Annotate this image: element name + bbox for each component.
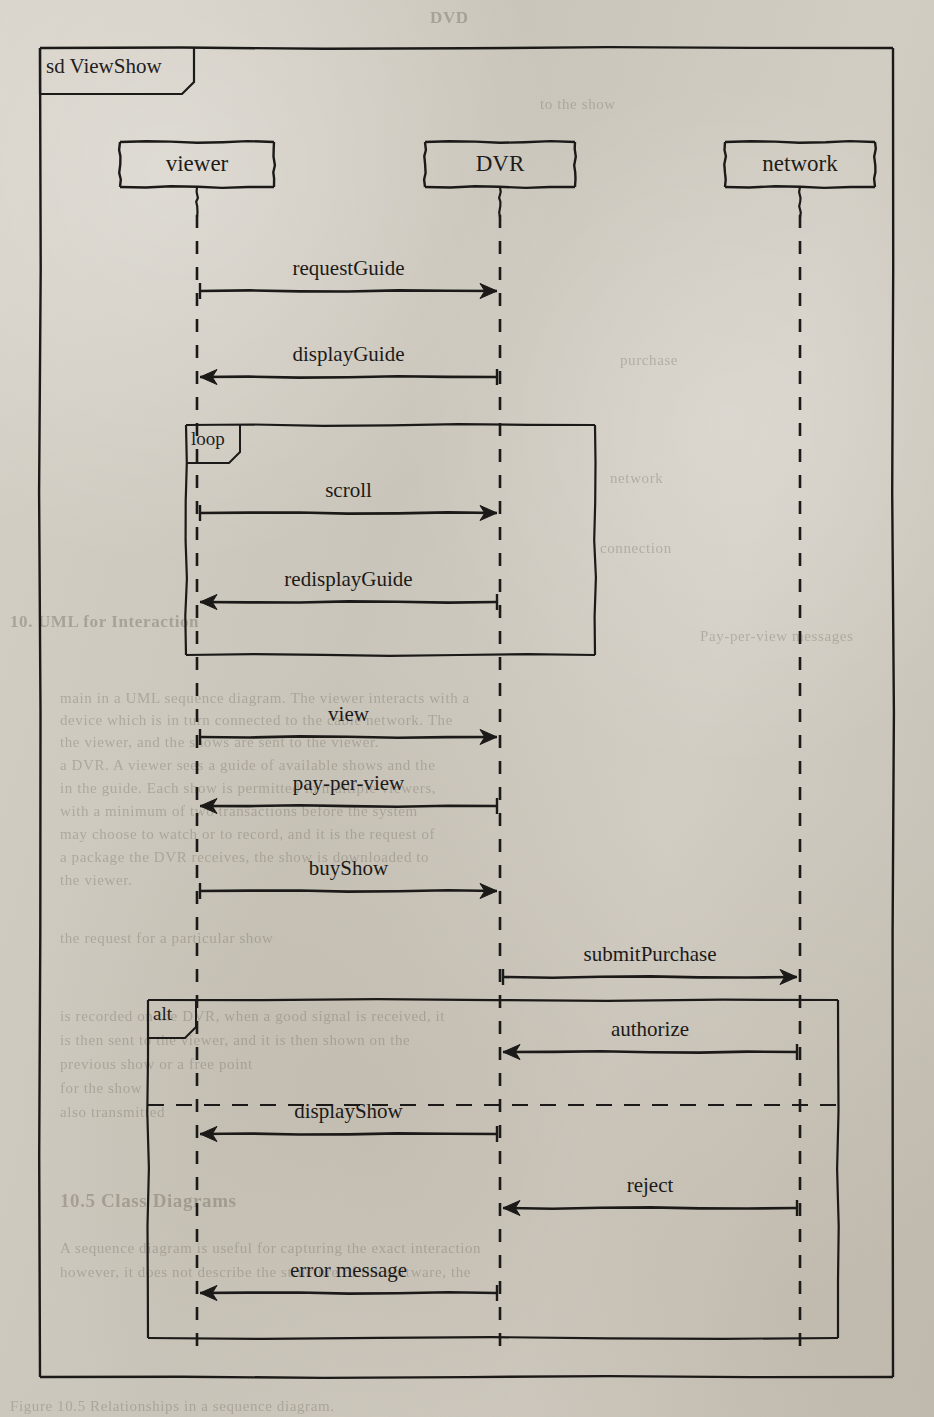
message-2 [200,505,497,521]
message-5 [200,798,497,814]
message-label-reject: reject [627,1173,674,1198]
lifeline-name-dvr: DVR [425,151,575,177]
message-arrow-shaft [200,1133,497,1134]
message-label-error-message: error message [290,1258,407,1283]
message-arrow-shaft [200,376,497,377]
loop-fragment-border-bottom [186,654,595,656]
outer-frame-border-bottom [40,1376,893,1378]
lifeline-name-viewer: viewer [120,151,274,177]
message-label-displayguide: displayGuide [293,342,405,367]
message-arrow-shaft [503,1207,797,1208]
message-1 [200,369,497,385]
outer-frame-border-top [40,47,893,49]
alt-fragment-border-left [147,1000,149,1338]
loop-fragment-border-left [185,425,187,655]
message-arrow-shaft [200,805,497,806]
sequence-diagram-canvas: sd ViewShowviewerDVRnetworkloopaltreques… [0,0,934,1417]
outer-frame-border-left [39,48,41,1377]
alt-fragment-border-right [837,1000,839,1338]
message-arrow-shaft [200,290,497,291]
message-arrow-shaft [200,890,497,891]
message-label-displayshow: displayShow [294,1099,403,1124]
lifeline-name-network: network [725,151,875,177]
lifeline-head-dvr-top [425,141,575,143]
message-arrow-shaft [200,601,497,602]
lifeline-stub-network [799,187,801,217]
message-label-buyshow: buyShow [309,856,388,881]
lifeline-head-network-top [725,141,875,143]
message-3 [200,594,497,610]
lifeline-stub-viewer [196,187,198,217]
lifeline-head-viewer-top [120,141,274,143]
message-arrow-shaft [200,512,497,513]
message-8 [503,1044,797,1060]
message-arrow-shaft [503,1051,797,1052]
message-label-authorize: authorize [611,1017,689,1042]
outer-frame-border-right [892,48,894,1377]
loop-fragment-border-top [186,424,595,426]
message-label-view: view [328,702,369,727]
message-4 [200,729,497,745]
loop-fragment-border-right [594,425,596,655]
sequence-diagram-svg [0,0,934,1417]
message-label-redisplayguide: redisplayGuide [284,567,412,592]
message-label-pay-per-view: pay-per-view [293,771,405,796]
message-9 [200,1126,497,1142]
message-label-scroll: scroll [325,478,372,503]
message-11 [200,1285,497,1301]
message-arrow-shaft [200,1292,497,1293]
message-6 [200,883,497,899]
frame-label: sd ViewShow [46,54,162,79]
message-arrow-shaft [200,736,497,737]
message-0 [200,283,497,299]
loop-fragment-operator-label: loop [191,428,225,450]
alt-fragment-operator-label: alt [153,1003,172,1025]
lifeline-stub-dvr [499,187,501,217]
message-7 [503,969,797,985]
message-label-requestguide: requestGuide [293,256,405,281]
message-arrow-shaft [503,976,797,977]
message-label-submitpurchase: submitPurchase [584,942,717,967]
message-10 [503,1200,797,1216]
alt-fragment-border-top [148,999,838,1001]
alt-fragment-border-bottom [148,1337,838,1339]
